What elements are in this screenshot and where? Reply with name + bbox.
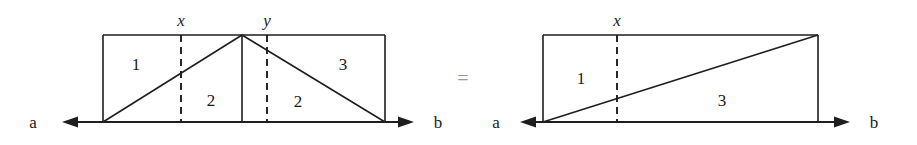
left-endpoint-label-b: b: [434, 113, 443, 132]
right-endpoint-label-a: a: [492, 113, 500, 132]
right-tick-label-x: x: [612, 11, 621, 30]
equals-sign: =: [457, 67, 468, 89]
right-region-label-3: 3: [718, 91, 727, 110]
left-region-label-2a: 2: [207, 91, 216, 110]
left-region-label-3: 3: [339, 55, 348, 74]
left-endpoint-label-a: a: [29, 113, 37, 132]
right-diagram: x a b 1 3: [492, 11, 878, 132]
left-triangle-hypotenuse: [103, 35, 242, 122]
left-axis-line: [62, 117, 414, 128]
left-tick-label-y: y: [261, 11, 271, 30]
left-axis-arrow-right: [398, 117, 414, 128]
right-endpoint-label-b: b: [870, 113, 879, 132]
figure-canvas: x y a b 1 2 2 3 =: [0, 0, 917, 145]
left-rectangle: [103, 35, 385, 122]
right-triangle-hypotenuse: [242, 35, 385, 122]
left-axis-arrow-left: [62, 117, 78, 128]
right-region-label-1: 1: [577, 69, 586, 88]
left-diagram: x y a b 1 2 2 3: [29, 11, 442, 132]
left-region-label-2b: 2: [294, 92, 303, 111]
geometry-figure: x y a b 1 2 2 3 =: [0, 0, 917, 145]
right-axis-arrow-left: [520, 117, 536, 128]
right-axis-arrow-right: [834, 117, 850, 128]
left-tick-label-x: x: [176, 11, 185, 30]
left-region-label-1: 1: [132, 55, 141, 74]
right-axis-line: [520, 117, 850, 128]
